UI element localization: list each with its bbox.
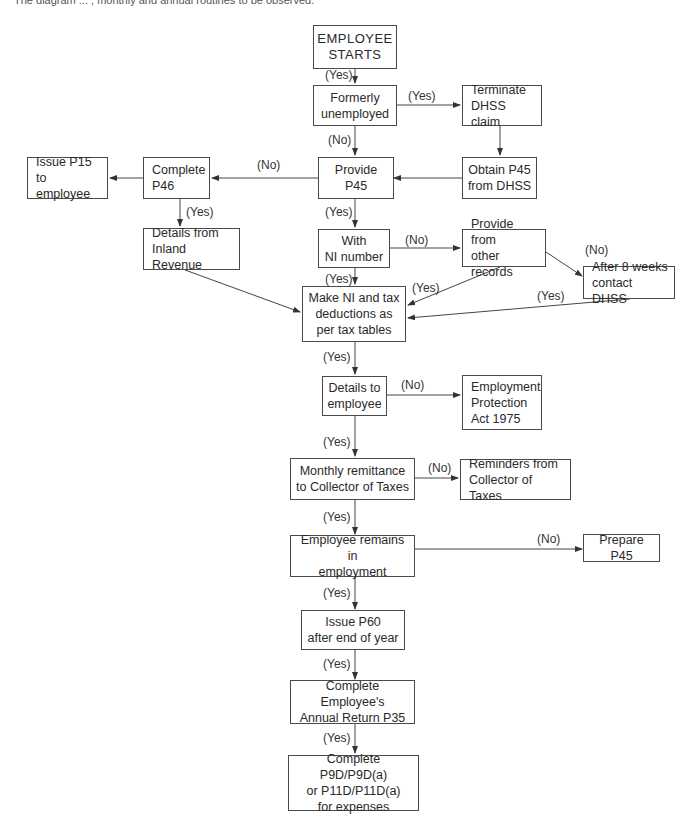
edge-label-yes: (Yes) [408,89,436,103]
node-text: NI number [325,249,383,265]
node-text: Complete Employee's [295,678,410,710]
node-text: Issue P15 [36,154,92,170]
node-text: Employment [471,379,540,395]
edge-label-no: (No) [405,233,428,247]
node-terminate-dhss-claim: Terminate DHSS claim [462,85,542,126]
node-obtain-p45: Obtain P45 from DHSS [462,157,537,199]
edge-label-yes: (Yes) [412,281,440,295]
node-annual-return-p35: Complete Employee's Annual Return P35 [290,680,415,724]
node-text: employee [327,396,381,412]
node-text: P45 [345,178,367,194]
node-text: Reminders from [469,456,558,472]
node-issue-p15: Issue P15 to employee [27,157,108,199]
node-text: Employee remains in [295,532,410,564]
node-complete-p9d: Complete P9D/P9D(a) or P11D/P11D(a) for … [288,755,419,811]
edge-label-no: (No) [537,532,560,546]
node-details-to-employee: Details to employee [322,376,387,416]
node-text: Details from [152,225,219,241]
edge-label-yes: (Yes) [323,510,351,524]
node-text: Formerly [330,90,379,106]
node-after-8-weeks: After 8 weeks contact DHSS [583,266,675,299]
node-text: to Collector of Taxes [296,479,409,495]
node-reminders-collector: Reminders from Collector of Taxes [460,459,571,500]
node-details-inland-revenue: Details from Inland Revenue [143,228,240,270]
node-issue-p60: Issue P60 after end of year [301,610,405,650]
node-text: After 8 weeks [592,259,668,275]
node-text: deductions as [315,306,392,322]
node-text: Annual Return P35 [300,710,406,726]
edge-label-no: (No) [428,461,451,475]
node-text: Make NI and tax [308,290,399,306]
node-text: after end of year [307,630,398,646]
node-text: EMPLOYEE [317,31,393,47]
node-text: employment [318,564,386,580]
edge-label-yes: (Yes) [325,272,353,286]
edge-label-yes: (Yes) [323,350,351,364]
node-text: Complete P9D/P9D(a) [293,751,414,783]
node-text: Terminate [471,82,526,98]
node-text: to employee [36,170,103,202]
node-employee-starts: EMPLOYEE STARTS [313,25,397,69]
node-text: Collector of Taxes [469,472,566,504]
node-text: Prepare P45 [588,532,655,564]
node-text: Provide from [471,216,541,248]
edge-label-no: (No) [257,158,280,172]
node-text: Details to [328,380,380,396]
edge-label-yes: (Yes) [323,657,351,671]
node-provide-p45: Provide P45 [318,157,394,199]
node-employment-protection-act: Employment Protection Act 1975 [462,375,542,430]
node-text: Obtain P45 [468,162,531,178]
node-prepare-p45: Prepare P45 [583,534,660,562]
node-text: from DHSS [468,178,531,194]
node-text: Provide [335,162,377,178]
edge-label-yes: (Yes) [323,731,351,745]
node-formerly-unemployed: Formerly unemployed [313,85,397,126]
edge-label-no: (No) [401,378,424,392]
node-text: for expenses [318,799,390,815]
node-text: STARTS [328,47,381,63]
node-monthly-remittance: Monthly remittance to Collector of Taxes [290,458,415,500]
node-text: Inland Revenue [152,241,235,273]
node-text: other records [471,248,541,280]
node-text: or P11D/P11D(a) [306,783,400,799]
node-text: contact DHSS [592,275,670,307]
node-text: DHSS claim [471,98,537,130]
node-text: With [342,233,367,249]
edge-label-no: (No) [328,133,351,147]
node-text: Monthly remittance [300,463,406,479]
edge-label-no: (No) [585,243,608,257]
node-text: Issue P60 [325,614,381,630]
edge-label-yes: (Yes) [323,586,351,600]
node-with-ni-number: With NI number [318,229,390,268]
edge-label-yes: (Yes) [186,205,214,219]
node-provide-other-records: Provide from other records [462,229,546,267]
node-text: unemployed [321,106,389,122]
node-text: Protection [471,395,527,411]
edge-label-yes: (Yes) [323,435,351,449]
node-text: Act 1975 [471,411,520,427]
node-complete-p46: Complete P46 [143,157,210,199]
node-text: P46 [152,178,174,194]
edge-label-yes: (Yes) [537,289,565,303]
edge-label-yes: (Yes) [325,205,353,219]
node-text: per tax tables [316,322,391,338]
node-make-ni-deductions: Make NI and tax deductions as per tax ta… [302,286,406,342]
node-text: Complete [152,162,206,178]
node-employee-remains: Employee remains in employment [290,535,415,577]
edge-label-yes: (Yes) [325,68,353,82]
